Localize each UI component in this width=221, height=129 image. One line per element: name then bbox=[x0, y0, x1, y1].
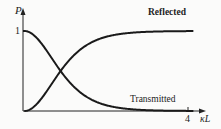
reflected-label: Reflected bbox=[148, 8, 186, 18]
x-tick-label-4: 4 bbox=[185, 114, 190, 124]
x-axis-label: κL bbox=[200, 114, 210, 124]
y-tick-label-1: 1 bbox=[15, 26, 20, 36]
y-axis-label: P bbox=[15, 5, 22, 16]
transmitted-label: Transmitted bbox=[130, 95, 176, 105]
chart-canvas bbox=[0, 0, 221, 129]
